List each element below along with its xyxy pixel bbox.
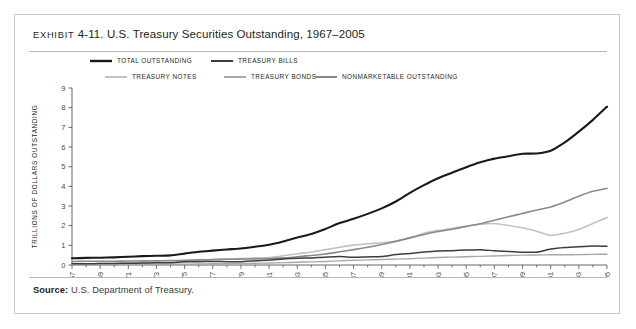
y-axis-tick-label: 7 <box>61 123 65 132</box>
y-axis-tick-label: 8 <box>61 103 65 112</box>
y-axis-tick-label: 3 <box>61 202 65 211</box>
legend-label: TREASURY BILLS <box>238 57 298 64</box>
legend-item: TREASURY NOTES <box>105 73 197 80</box>
y-axis-tick-label: 0 <box>61 261 65 270</box>
y-axis-tick-label: 5 <box>61 162 65 171</box>
source-divider <box>29 277 607 278</box>
exhibit-number: 4-11. <box>78 28 104 40</box>
legend-item: NONMARKETABLE OUTSTANDING <box>315 73 458 80</box>
source-note: Source: U.S. Department of Treasury. <box>33 285 194 295</box>
y-axis-title: TRILLIONS OF DOLLARS OUTSTANDING <box>31 105 38 249</box>
series-line <box>72 188 607 261</box>
y-axis-tick-label: 1 <box>61 241 65 250</box>
legend-item: TOTAL OUTSTANDING <box>90 57 192 64</box>
legend-label: TREASURY NOTES <box>132 73 197 80</box>
exhibit-title: Exhibit 4-11. U.S. Treasury Securities O… <box>33 28 365 40</box>
exhibit-title-text: U.S. Treasury Securities Outstanding, 19… <box>107 28 365 40</box>
legend-label: TOTAL OUTSTANDING <box>117 57 192 64</box>
y-axis-tick-label: 4 <box>61 182 65 191</box>
exhibit-frame: Exhibit 4-11. U.S. Treasury Securities O… <box>14 14 620 314</box>
treasury-securities-line-chart: TOTAL OUTSTANDINGTREASURY BILLSTREASURY … <box>15 51 619 277</box>
chart-area: TOTAL OUTSTANDINGTREASURY BILLSTREASURY … <box>15 51 619 277</box>
legend-item: TREASURY BONDS <box>224 73 316 80</box>
legend-label: NONMARKETABLE OUTSTANDING <box>342 73 458 80</box>
source-text: U.S. Department of Treasury. <box>68 285 194 295</box>
y-axis-tick-label: 2 <box>61 221 65 230</box>
y-axis-tick-label: 9 <box>61 84 65 93</box>
legend-item: TREASURY BILLS <box>211 57 298 64</box>
legend-label: TREASURY BONDS <box>251 73 316 80</box>
series-line <box>72 107 607 259</box>
source-prefix: Source: <box>33 285 68 295</box>
y-axis-tick-label: 6 <box>61 143 65 152</box>
exhibit-label: Exhibit <box>33 30 74 40</box>
